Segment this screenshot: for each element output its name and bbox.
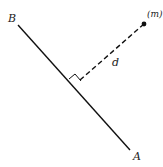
label-b: B <box>7 12 16 25</box>
point-m <box>142 22 147 27</box>
label-d: d <box>112 56 119 69</box>
line-ba <box>18 25 130 150</box>
label-a: A <box>132 150 141 163</box>
diagram-canvas: B A (m) d <box>0 0 163 167</box>
distance-segment-d <box>80 24 144 80</box>
right-angle-marker <box>69 74 81 81</box>
label-m: (m) <box>147 9 163 19</box>
